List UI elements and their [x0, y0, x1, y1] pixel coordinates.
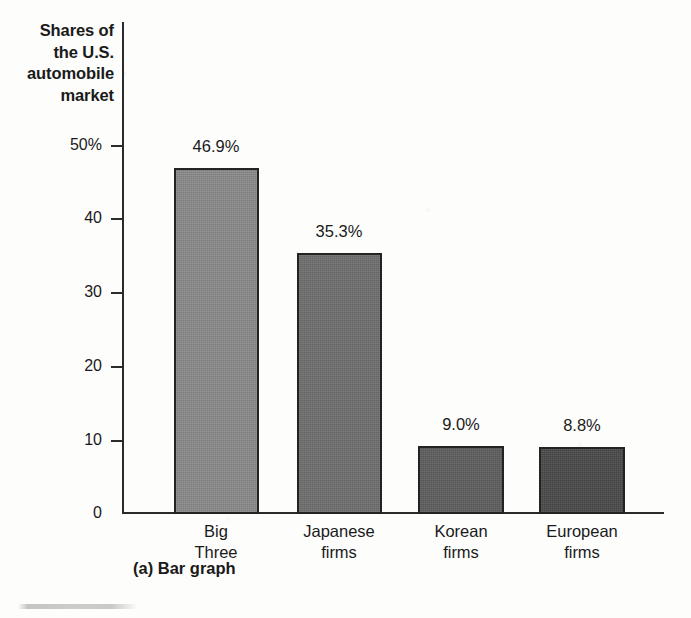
y-tick-label-50: 50%: [34, 137, 102, 153]
x-category-label-japanese-firms-line-2: firms: [269, 542, 409, 563]
x-category-label-korean-firms-line-2: firms: [391, 542, 531, 563]
bar-big-three: [174, 168, 259, 514]
bar-chart-figure: Shares of the U.S. automobile market 50%…: [0, 0, 691, 618]
y-axis-title-line-2: the U.S.: [8, 42, 114, 64]
x-category-label-korean-firms-line-1: Korean: [391, 521, 531, 542]
x-category-label-european-firms-line-2: firms: [512, 542, 652, 563]
y-tick-label-0-wrap: 0: [34, 505, 102, 521]
y-tick-mark-30: [111, 292, 123, 294]
y-tick-label-40: 40: [34, 210, 102, 226]
bar-texture-korean-firms: [420, 448, 502, 512]
y-tick-label-30: 30: [34, 284, 102, 300]
y-tick-mark-20: [111, 366, 123, 368]
bar-value-label-european-firms: 8.8%: [512, 417, 652, 434]
y-tick-label-50-wrap: 50%: [34, 137, 102, 153]
bar-japanese-firms: [297, 253, 382, 514]
x-category-label-european-firms: European firms: [512, 521, 652, 563]
bar-european-firms: [539, 447, 625, 514]
y-tick-label-30-wrap: 30: [34, 284, 102, 300]
bar-value-label-korean-firms: 9.0%: [391, 416, 531, 433]
x-category-label-japanese-firms-line-1: Japanese: [269, 521, 409, 542]
bar-texture-european-firms: [541, 449, 623, 512]
y-tick-mark-50: [111, 145, 123, 147]
y-axis-title-line-4: market: [8, 85, 114, 107]
y-axis-title-line-1: Shares of: [8, 20, 114, 42]
y-axis-title: Shares of the U.S. automobile market: [8, 20, 114, 106]
y-tick-mark-40: [111, 218, 123, 220]
x-category-label-japanese-firms: Japanese firms: [269, 521, 409, 563]
x-category-label-korean-firms: Korean firms: [391, 521, 531, 563]
bar-texture-big-three: [176, 170, 257, 512]
x-category-label-european-firms-line-1: European: [512, 521, 652, 542]
x-category-label-big-three: Big Three: [146, 521, 286, 563]
bar-value-label-japanese-firms: 35.3%: [269, 223, 409, 240]
y-axis-title-line-3: automobile: [8, 63, 114, 85]
y-tick-label-10: 10: [34, 432, 102, 448]
y-tick-label-10-wrap: 10: [34, 432, 102, 448]
bar-value-label-big-three: 46.9%: [146, 138, 286, 155]
bar-korean-firms: [418, 446, 504, 514]
y-tick-label-40-wrap: 40: [34, 210, 102, 226]
scan-smudge-artifact: [18, 604, 138, 609]
x-category-label-big-three-line-1: Big: [146, 521, 286, 542]
y-tick-label-20: 20: [34, 358, 102, 374]
y-tick-mark-10: [111, 440, 123, 442]
y-tick-label-20-wrap: 20: [34, 358, 102, 374]
y-tick-label-0: 0: [34, 505, 102, 521]
bar-texture-japanese-firms: [299, 255, 380, 512]
figure-caption: (a) Bar graph: [133, 559, 236, 578]
